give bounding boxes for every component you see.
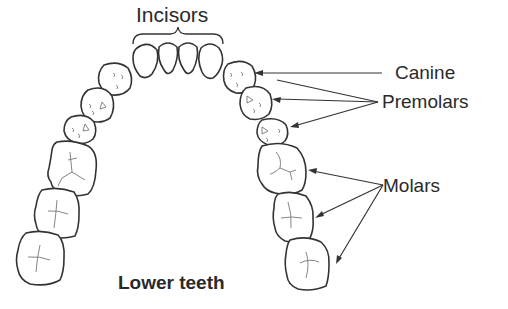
molar-left-2	[35, 188, 80, 238]
incisor-left-lateral	[133, 44, 158, 77]
canine-label: Canine	[395, 62, 455, 84]
incisor-left-central	[159, 43, 178, 74]
caption-lower-teeth: Lower teeth	[118, 272, 225, 294]
molar-left-1	[48, 141, 96, 196]
incisors-brace	[133, 27, 223, 44]
molar-left-3	[17, 231, 65, 285]
molars-label: Molars	[383, 175, 440, 197]
molar-right-3	[285, 238, 329, 290]
dental-arch-svg	[0, 0, 508, 309]
left-teeth-group	[17, 63, 132, 285]
incisors-group	[133, 43, 223, 78]
incisor-right-central	[179, 43, 198, 74]
premolar-left-2	[64, 115, 96, 143]
incisors-label: Incisors	[136, 3, 208, 27]
right-teeth-group	[224, 61, 330, 290]
lower-teeth-diagram: Incisors Canine Premolars Molars Lower t…	[0, 0, 508, 309]
incisor-right-lateral	[199, 44, 223, 78]
premolars-label: Premolars	[382, 91, 469, 113]
premolar-right-1	[240, 86, 272, 119]
